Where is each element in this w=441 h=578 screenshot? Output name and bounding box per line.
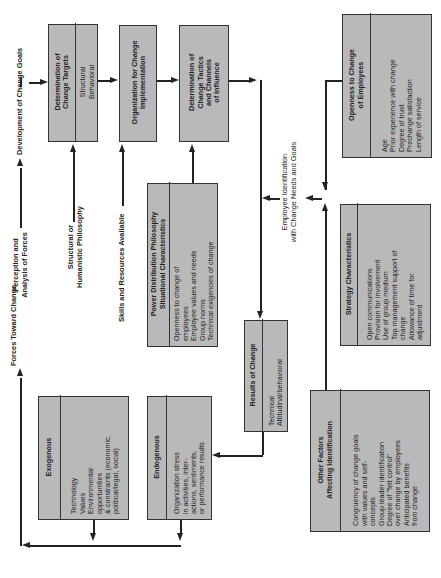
box-header: Determination of Change Targets [49,23,76,141]
arrow-up-icon [189,144,195,152]
arrow-left-icon [305,195,313,201]
arrow-left-icon [22,542,30,548]
box-title: Affecting Identification [326,421,334,499]
box-header: Endogenous [148,395,167,519]
arrow-down-icon [90,533,96,541]
label-text: Analysis of Forces [21,230,30,300]
flow-line-left-bottom-corner [20,514,22,546]
box-header: Determination of Change Tactics and Chan… [180,24,230,141]
label-skills-resources: Skills and Resources Available [118,214,127,322]
box-item: Length of service [415,18,423,152]
box-body: Technical Attitudinal/behavioral [263,319,289,431]
label-text: with Change Needs and Goals [290,137,299,247]
label-text: Skills and Resources Available [117,214,126,322]
flow-line-other-up [325,211,327,390]
label-employee-identification: Employee Identification with Change Need… [281,137,298,247]
flow-line-results-to-endo [220,455,263,457]
box-item: adjustment [416,208,424,340]
box-title: Implementation [139,56,147,109]
arrow-down-icon [177,533,183,541]
box-item: Technical exigencies of change [207,187,215,341]
arrow-right-icon [249,77,257,83]
box-body: Organization stress in activities, inter… [167,395,213,519]
flow-line-left-bottom [20,378,22,514]
box-item: political/legal, social) [112,400,120,514]
box-body: Open communications Provision for involv… [358,203,432,345]
box-header: Results of Change [245,319,263,431]
arrow-right-icon [40,79,48,85]
box-title: Strategy Characteristics [345,233,353,316]
arrow-up-icon [70,144,76,152]
arrow-up-icon [322,203,328,211]
arrow-down-icon [322,182,328,190]
arrow-left-icon [212,452,220,458]
flow-line-ident-right [312,198,322,200]
flow-line-tactics-out [229,80,249,82]
box-power-distribution: Power Distribution Philosophy Situationa… [147,183,218,347]
arrow-right-icon [110,77,118,83]
box-endogenous: Endogenous Organization stress in activi… [147,396,212,520]
flow-line-targets-to-org [98,80,110,82]
arrow-left-icon [262,195,270,201]
box-header: Power Distribution Philosophy Situationa… [148,182,170,346]
box-body: Technology Values Environmental opportun… [61,395,130,519]
box-header: Strategy Characteristics [341,203,358,345]
box-title: Change Targets [62,55,70,109]
box-header: Openness to Change of Employees [343,13,371,157]
box-openness: Openness to Change of Employees Age Prio… [342,14,432,158]
flow-line-org-to-tactics [157,80,171,82]
flow-line-exo-down [93,520,95,534]
flow-line-skills [122,152,124,206]
flow-line-bottom-feedback [30,545,181,547]
box-title: Situational Characteristics [159,219,167,310]
box-organization: Organization for Change Implementation [119,25,157,142]
label-philosophy: Structural or Humanistic Philosophy [67,206,84,288]
box-body: Congruency of change goals with values a… [341,389,431,531]
box-title: of Employees [357,62,365,109]
box-item: Behavioral [88,65,96,99]
box-header: Other Factors Affecting Identification [311,389,341,531]
label-development-goals: Development of Change Goals [16,48,25,155]
box-strategy: Strategy Characteristics Open communicat… [340,204,431,346]
box-tactics: Determination of Change Tactics and Chan… [179,25,229,142]
box-header: Exogenous [39,395,61,519]
arrow-right-icon [171,77,179,83]
arrow-up-icon [17,368,23,376]
label-text: Humanistic Philosophy [76,206,85,288]
box-exogenous: Exogenous Technology Values Environmenta… [38,396,129,520]
flow-line-openness [325,80,342,82]
box-title: Exogenous [45,438,53,477]
box-body: Openness to change of employees Employee… [170,182,219,346]
box-body: Structural Behavioral [76,23,99,141]
arrow-up-icon [17,158,23,166]
box-item: or performance results [198,400,206,514]
box-body: Age Prior experience with change Degree … [371,13,433,157]
flow-line-openness-down [325,80,327,190]
box-item: Attitudinal/behavioral [276,324,284,426]
box-results: Results of Change Technical Attitudinal/… [244,320,288,432]
box-header: Organization for Change Implementation [120,24,158,141]
label-text: Development of Change Goals [15,48,24,155]
box-title: of Influence [213,62,221,102]
flow-line-power-to-tactics [192,152,194,183]
label-perception: Perception and Analysis of Forces [12,230,29,300]
box-title: Results of Change [249,343,257,406]
flow-line-results-down [262,432,264,455]
flow-line-ident-left [270,198,280,200]
arrow-down-icon [257,311,263,319]
box-change-targets: Determination of Change Targets Structur… [48,24,98,142]
flow-line-endo-down [180,520,182,534]
flow-line-left-mid [20,168,22,228]
arrow-up-icon [119,144,125,152]
box-title: Endogenous [153,435,161,479]
box-other-factors: Other Factors Affecting Identification C… [310,390,430,532]
box-item: from change [411,394,419,526]
